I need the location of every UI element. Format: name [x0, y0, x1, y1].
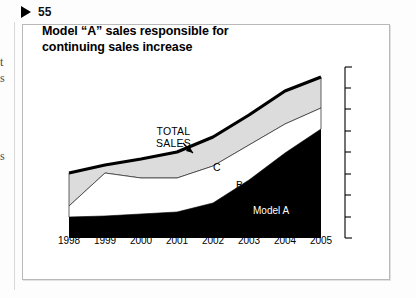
play-triangle-icon — [21, 6, 31, 18]
margin-text-fragment: s — [0, 150, 9, 163]
scanned-page: t s s 55 — [0, 0, 416, 298]
annotation-band-c: C — [213, 161, 221, 173]
figure-title: Model “A” sales responsible for continui… — [42, 24, 272, 55]
x-axis-tick-label: 2003 — [238, 235, 260, 247]
x-axis-tick-label: 1999 — [94, 235, 116, 247]
figure-container: TOTAL SALES C B Model A 1998199920002001… — [22, 24, 390, 280]
margin-text-fragment: s — [0, 72, 9, 85]
x-axis: 19981999200020012002200320042005 — [23, 235, 391, 251]
page-number: 55 — [38, 6, 51, 18]
annotation-band-a: Model A — [253, 205, 289, 217]
x-axis-tick-label: 1998 — [58, 235, 80, 247]
annotation-total-sales-line1: TOTAL — [156, 125, 191, 137]
x-axis-tick-label: 2001 — [166, 235, 188, 247]
annotation-total-sales: TOTAL SALES — [156, 125, 191, 149]
page-column-rule — [14, 22, 15, 290]
x-axis-tick-label: 2004 — [274, 235, 296, 247]
x-axis-tick-label: 2000 — [130, 235, 152, 247]
page-marker: 55 — [21, 6, 51, 18]
margin-text-fragment: t — [0, 56, 9, 69]
right-axis-bracket — [345, 67, 352, 238]
x-axis-tick-label: 2005 — [310, 235, 332, 247]
annotation-total-sales-line2: SALES — [156, 137, 191, 149]
annotation-band-b: B — [236, 179, 243, 191]
x-axis-tick-label: 2002 — [202, 235, 224, 247]
